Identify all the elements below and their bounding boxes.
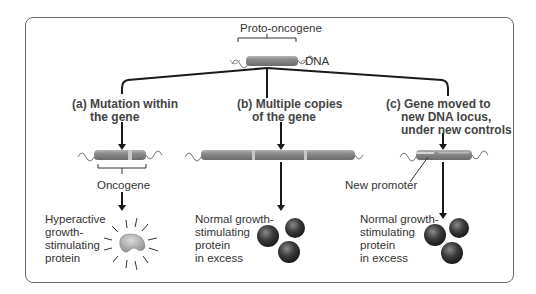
branch-a-heading-line2: the gene xyxy=(90,111,139,124)
protein-sphere-icon xyxy=(257,225,279,247)
protein-sphere-icon xyxy=(449,218,469,238)
branch-a-protein-line2: growth- xyxy=(45,226,83,239)
protein-sphere-icon xyxy=(441,242,463,264)
new-promoter-label: New promoter xyxy=(345,179,417,192)
branch-c-protein-line2: stimulating xyxy=(360,226,415,239)
branch-a-protein-line4: protein xyxy=(45,252,80,265)
proto-oncogene-label: Proto-oncogene xyxy=(240,22,322,35)
branch-a-protein-line3: stimulating xyxy=(45,239,100,252)
protein-sphere-icon xyxy=(285,218,305,238)
dna-label: DNA xyxy=(305,55,329,68)
branch-c-protein-line4: in excess xyxy=(360,252,408,265)
branch-lines xyxy=(122,68,448,98)
protein-sphere-icon xyxy=(424,224,446,246)
proto-oncogene-dna xyxy=(230,34,314,68)
oncogene-label: Oncogene xyxy=(97,179,150,192)
branch-b-protein-line3: protein xyxy=(195,239,230,252)
branch-c-protein-line1: Normal growth- xyxy=(360,213,439,226)
branch-c-protein-line3: protein xyxy=(360,239,395,252)
branch-a-protein-line1: Hyperactive xyxy=(45,213,106,226)
branch-b-protein-line4: in excess xyxy=(195,252,243,265)
protein-sphere-icon xyxy=(278,241,300,263)
branch-c-heading-line3: under new controls xyxy=(401,124,512,137)
branch-b-heading-line2: of the gene xyxy=(252,111,316,124)
branch-b-protein-line2: stimulating xyxy=(195,226,250,239)
branch-c-graphics xyxy=(400,133,488,264)
branch-b-protein-line1: Normal growth- xyxy=(195,213,274,226)
